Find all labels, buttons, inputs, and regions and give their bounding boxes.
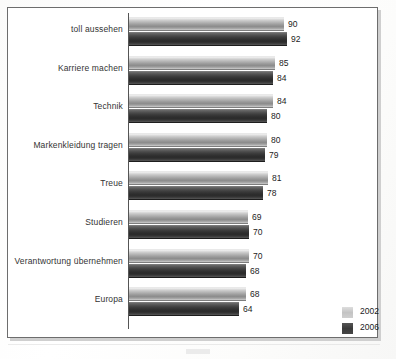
scan-speckle — [186, 349, 210, 354]
bar-row: 84 — [129, 71, 377, 85]
bar-row: 80 — [129, 109, 377, 123]
bar-value-label: 78 — [267, 188, 276, 198]
bar-value-label: 79 — [269, 150, 278, 160]
bar-value-label: 92 — [291, 34, 300, 44]
bar-row: 78 — [129, 186, 377, 200]
bar-value-label: 84 — [277, 96, 286, 106]
bar-group: Markenkleidung tragen8079 — [8, 132, 377, 164]
bar-row: 70 — [129, 249, 377, 263]
bar-group: Europa6864 — [8, 286, 377, 318]
bar-2006-7 — [129, 302, 239, 316]
bar-2002-3 — [129, 133, 267, 147]
bar-2002-7 — [129, 287, 246, 301]
bar-row: 90 — [129, 17, 377, 31]
category-label: Technik — [0, 101, 123, 111]
category-label: Studieren — [0, 217, 123, 227]
bar-group: toll aussehen9092 — [8, 16, 377, 48]
bar-2006-0 — [129, 32, 287, 46]
legend-swatch-2002 — [342, 307, 353, 318]
bar-2006-5 — [129, 225, 249, 239]
legend-item: 2006 — [342, 321, 396, 337]
category-label: Markenkleidung tragen — [0, 140, 123, 150]
bar-row: 92 — [129, 32, 377, 46]
bar-row: 79 — [129, 148, 377, 162]
bar-value-label: 81 — [272, 173, 281, 183]
legend-item: 2002 — [342, 305, 396, 321]
chart-frame: toll aussehen9092Karriere machen8584Tech… — [7, 7, 378, 338]
chart-legend: 20022006 — [342, 305, 396, 337]
scan-frame: toll aussehen9092Karriere machen8584Tech… — [0, 0, 396, 359]
bar-2006-3 — [129, 148, 265, 162]
category-label: Europa — [0, 294, 123, 304]
bar-value-label: 64 — [243, 304, 252, 314]
bar-value-label: 85 — [279, 58, 288, 68]
bar-2006-1 — [129, 71, 273, 85]
bar-group: Studieren6970 — [8, 209, 377, 241]
bar-value-label: 68 — [250, 266, 259, 276]
bar-2002-1 — [129, 56, 275, 70]
plot-area: toll aussehen9092Karriere machen8584Tech… — [8, 8, 377, 337]
bar-group: Technik8480 — [8, 93, 377, 125]
bar-value-label: 90 — [288, 19, 297, 29]
bar-2002-6 — [129, 249, 249, 263]
bar-2002-4 — [129, 171, 268, 185]
bar-row: 68 — [129, 287, 377, 301]
bar-group: Verantwortung übernehmen7068 — [8, 248, 377, 280]
legend-label: 2006 — [360, 322, 379, 332]
bar-row: 81 — [129, 171, 377, 185]
bar-group: Treue8178 — [8, 170, 377, 202]
bar-row: 85 — [129, 56, 377, 70]
bar-value-label: 70 — [253, 251, 262, 261]
bar-row: 80 — [129, 133, 377, 147]
bar-value-label: 80 — [271, 111, 280, 121]
scan-edge-line — [8, 344, 380, 345]
bar-value-label: 68 — [250, 289, 259, 299]
category-label: Treue — [0, 178, 123, 188]
bar-row: 69 — [129, 210, 377, 224]
bar-row: 68 — [129, 264, 377, 278]
legend-swatch-2006 — [342, 323, 353, 334]
legend-label: 2002 — [360, 306, 379, 316]
bar-value-label: 69 — [252, 212, 261, 222]
bar-2006-6 — [129, 264, 246, 278]
bar-2006-4 — [129, 186, 263, 200]
bar-2002-5 — [129, 210, 248, 224]
category-label: Verantwortung übernehmen — [0, 256, 123, 266]
category-label: Karriere machen — [0, 63, 123, 73]
bar-row: 84 — [129, 94, 377, 108]
bar-2002-0 — [129, 17, 284, 31]
bar-2002-2 — [129, 94, 273, 108]
bar-2006-2 — [129, 109, 267, 123]
bar-value-label: 80 — [271, 135, 280, 145]
bar-row: 70 — [129, 225, 377, 239]
bar-group: Karriere machen8584 — [8, 55, 377, 87]
bar-row: 64 — [129, 302, 377, 316]
bar-value-label: 84 — [277, 73, 286, 83]
category-label: toll aussehen — [0, 24, 123, 34]
bar-value-label: 70 — [253, 227, 262, 237]
